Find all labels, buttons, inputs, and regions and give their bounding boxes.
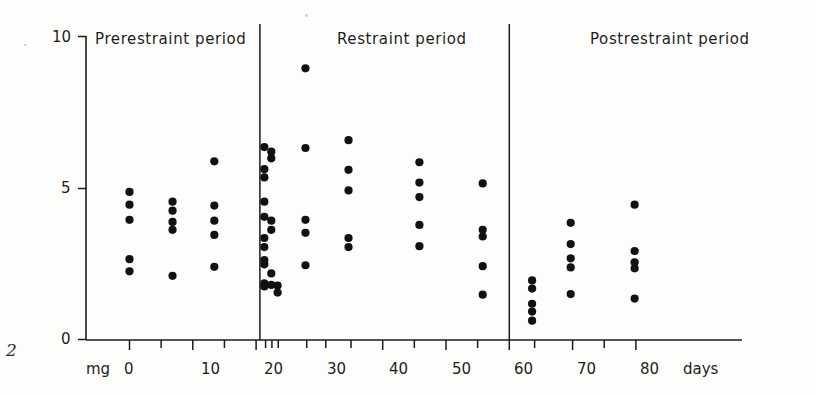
data-point	[479, 262, 487, 270]
data-point	[168, 226, 176, 234]
data-point	[210, 231, 218, 239]
data-point	[210, 157, 218, 165]
data-point	[168, 218, 176, 226]
data-point	[567, 290, 575, 298]
data-point	[479, 179, 487, 187]
data-point	[267, 226, 275, 234]
data-points-group	[125, 64, 638, 325]
data-point	[260, 260, 268, 268]
data-point	[528, 285, 536, 293]
data-point	[125, 216, 133, 224]
data-point	[631, 264, 639, 272]
data-point	[301, 144, 309, 152]
data-point	[415, 158, 423, 166]
data-point	[567, 240, 575, 248]
data-point	[125, 188, 133, 196]
data-point	[567, 254, 575, 262]
data-point	[274, 288, 282, 296]
data-point	[567, 263, 575, 271]
data-point	[210, 263, 218, 271]
data-point	[528, 300, 536, 308]
data-point	[301, 64, 309, 72]
data-point	[168, 198, 176, 206]
data-point	[210, 217, 218, 225]
data-point	[267, 217, 275, 225]
data-point	[260, 282, 268, 290]
figure-container: 2 Prerestraint period Restraint period P…	[0, 0, 818, 396]
data-point	[415, 221, 423, 229]
period-dividers-group	[260, 24, 509, 340]
plot-canvas	[0, 0, 818, 396]
data-point	[125, 267, 133, 275]
data-point	[567, 219, 575, 227]
data-point	[267, 154, 275, 162]
data-point	[168, 272, 176, 280]
data-point	[344, 243, 352, 251]
data-point	[415, 178, 423, 186]
data-point	[260, 213, 268, 221]
data-point	[260, 143, 268, 151]
data-point	[631, 247, 639, 255]
data-point	[260, 234, 268, 242]
data-point	[210, 201, 218, 209]
data-point	[260, 173, 268, 181]
data-point	[344, 166, 352, 174]
data-point	[415, 193, 423, 201]
data-point	[631, 295, 639, 303]
x-ticks-group	[130, 340, 636, 350]
data-point	[301, 229, 309, 237]
data-point	[260, 243, 268, 251]
axes-group	[78, 36, 742, 340]
data-point	[267, 269, 275, 277]
data-point	[344, 186, 352, 194]
data-point	[479, 232, 487, 240]
data-point	[344, 136, 352, 144]
data-point	[125, 255, 133, 263]
data-point	[260, 165, 268, 173]
data-point	[168, 207, 176, 215]
data-point	[301, 216, 309, 224]
data-point	[344, 234, 352, 242]
data-point	[479, 291, 487, 299]
data-point	[125, 201, 133, 209]
data-point	[528, 276, 536, 284]
data-point	[528, 308, 536, 316]
data-point	[528, 317, 536, 325]
data-point	[415, 242, 423, 250]
data-point	[260, 198, 268, 206]
data-point	[301, 261, 309, 269]
data-point	[631, 201, 639, 209]
